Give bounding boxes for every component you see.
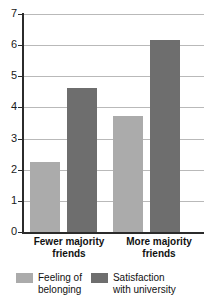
x-axis-line	[22, 232, 204, 234]
x-axis-category-label: More majority friends	[114, 236, 204, 260]
y-axis-tick-label: 6	[1, 39, 17, 50]
legend-swatch	[91, 273, 108, 283]
legend-label: Satisfaction with university	[113, 272, 176, 296]
bar	[113, 116, 143, 232]
y-axis-tick-label: 3	[1, 133, 17, 144]
y-axis-line	[22, 13, 24, 234]
bar	[67, 88, 97, 232]
y-axis-tick-label-wrap: 7	[0, 8, 17, 19]
bar-chart: 01234567 Fewer majority friendsMore majo…	[0, 0, 207, 307]
y-axis-tick-label-wrap: 6	[0, 39, 17, 50]
y-axis-tick-label-wrap: 4	[0, 101, 17, 112]
legend: Feeling of belongingSatisfaction with un…	[16, 272, 201, 296]
y-axis-tick-label: 7	[1, 8, 17, 19]
y-axis-tick-label: 5	[1, 70, 17, 81]
y-axis-tick-label-wrap: 3	[0, 133, 17, 144]
y-axis-tick-label: 0	[1, 226, 17, 237]
y-axis-tick-label: 1	[1, 195, 17, 206]
legend-label: Feeling of belonging	[38, 272, 82, 296]
y-axis-tick-label-wrap: 1	[0, 195, 17, 206]
gridline	[23, 14, 204, 15]
y-axis-tick-label: 4	[1, 101, 17, 112]
legend-item: Feeling of belonging	[16, 272, 82, 296]
y-axis-tick-label-wrap: 2	[0, 164, 17, 175]
legend-swatch	[16, 273, 33, 283]
y-axis-tick-label-wrap: 5	[0, 70, 17, 81]
x-axis-category-labels: Fewer majority friendsMore majority frie…	[24, 236, 204, 260]
bar	[30, 162, 60, 232]
x-axis-category-label: Fewer majority friends	[24, 236, 114, 260]
y-axis-tick-label: 2	[1, 164, 17, 175]
bar	[150, 40, 180, 232]
legend-item: Satisfaction with university	[91, 272, 176, 296]
y-axis-tick-label-wrap: 0	[0, 226, 17, 237]
